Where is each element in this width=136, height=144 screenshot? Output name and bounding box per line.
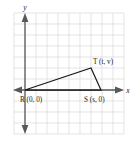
x-axis-arrow-left — [13, 87, 22, 94]
y-axis — [22, 13, 29, 134]
graph-svg: x y R (0, 0) S (s, 0) T (t, v) — [0, 0, 136, 144]
x-axis-arrow-right — [115, 87, 124, 94]
y-axis-label: y — [22, 3, 27, 12]
point-label-t: T (t, v) — [93, 58, 114, 66]
y-axis-arrow-down — [22, 125, 29, 134]
x-axis-label: x — [125, 86, 130, 95]
point-label-r: R (0, 0) — [20, 96, 43, 104]
point-label-s: S (s, 0) — [84, 96, 105, 104]
coordinate-plane-figure: x y R (0, 0) S (s, 0) T (t, v) — [0, 0, 136, 144]
grid-lines — [14, 13, 124, 134]
y-axis-arrow-up — [22, 13, 29, 22]
